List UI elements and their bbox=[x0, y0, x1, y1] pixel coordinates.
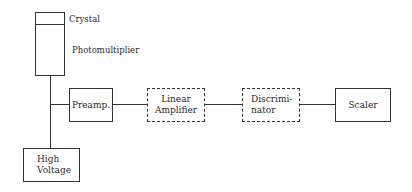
linamp-to-discrim-wire bbox=[205, 104, 243, 105]
high-voltage-block: High Voltage bbox=[23, 148, 80, 182]
discrim-to-scaler-wire bbox=[300, 104, 336, 105]
pmt-to-preamp-wire bbox=[50, 104, 70, 105]
linear-amplifier-block: Linear Amplifier bbox=[147, 88, 205, 122]
preamp-label: Preamp. bbox=[72, 100, 110, 111]
discriminator-label-line1: Discrimi- bbox=[251, 94, 292, 105]
preamp-to-linamp-wire bbox=[113, 104, 148, 105]
discriminator-label-line2: nator bbox=[251, 105, 276, 116]
linear-amplifier-label-line1: Linear bbox=[161, 94, 191, 105]
discriminator-block: Discrimi- nator bbox=[242, 88, 300, 122]
crystal-label: Crystal bbox=[69, 14, 100, 24]
pmt-to-hv-wire bbox=[50, 76, 51, 149]
scaler-block: Scaler bbox=[335, 88, 391, 122]
high-voltage-label-line1: High bbox=[37, 154, 59, 165]
preamp-block: Preamp. bbox=[69, 88, 113, 122]
high-voltage-label-line2: Voltage bbox=[37, 165, 71, 176]
linear-amplifier-label-line2: Amplifier bbox=[155, 105, 197, 116]
photomultiplier-label: Photomultiplier bbox=[72, 45, 139, 55]
photomultiplier-block bbox=[35, 24, 65, 76]
scaler-label: Scaler bbox=[348, 100, 377, 111]
